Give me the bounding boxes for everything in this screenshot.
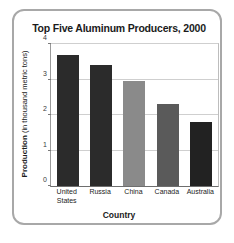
x-axis-tick-label-line: Canada — [150, 188, 183, 197]
bar-canada — [157, 104, 179, 186]
x-axis-tick-label-line: Russia — [83, 188, 116, 197]
y-axis-tick-label: 0 — [43, 176, 47, 183]
x-axis-tick-label-line: Australia — [184, 188, 217, 197]
bar-united-states — [57, 55, 79, 186]
bar-slot — [151, 44, 184, 186]
y-axis-tick-label: 3 — [43, 69, 47, 76]
x-axis-tick-label-line: China — [117, 188, 150, 197]
x-axis-tick-label-line: States — [50, 197, 83, 206]
chart-figure-frame: Top Five Aluminum Producers, 2000 Produc… — [12, 9, 222, 225]
x-axis-tick-label: UnitedStates — [50, 188, 83, 205]
bar-russia — [90, 65, 112, 186]
y-axis-title-rest: (in thousand metric tons) — [20, 51, 29, 136]
bar-slot — [185, 44, 218, 186]
bar-slot — [84, 44, 117, 186]
bar-china — [123, 81, 145, 186]
x-axis-tick-label-line: United — [50, 188, 83, 197]
x-axis-title: Country — [14, 210, 224, 220]
y-axis-tick-label: 4 — [43, 34, 47, 41]
y-axis-tick-label: 2 — [43, 105, 47, 112]
bar-slot — [118, 44, 151, 186]
bar-slot — [51, 44, 84, 186]
bar-australia — [190, 122, 212, 186]
x-axis-tick-label: Russia — [83, 188, 116, 205]
y-axis-tick-label: 1 — [43, 140, 47, 147]
x-axis-tick-label: China — [117, 188, 150, 205]
y-axis-title: Production (in thousand metric tons) — [20, 43, 32, 185]
x-axis-tick-label: Canada — [150, 188, 183, 205]
plot-area: 01234 — [50, 43, 219, 187]
x-axis-tick-label: Australia — [184, 188, 217, 205]
y-axis-title-strong: Production — [20, 135, 29, 177]
bar-series — [51, 44, 218, 186]
chart-title: Top Five Aluminum Producers, 2000 — [14, 22, 224, 34]
x-axis-tick-labels: UnitedStatesRussiaChinaCanadaAustralia — [50, 188, 217, 205]
